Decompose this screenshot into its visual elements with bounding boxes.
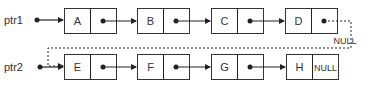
node-b-value: B [147,15,154,27]
node-e-value: E [74,61,81,73]
node-d-value: D [295,15,303,27]
linked-list-diagram: ptr1 A B C D NULL ptr2 E [0,0,373,100]
node-h-value: H [296,61,304,73]
node-h: H NULL [287,55,339,80]
ptr2-label: ptr2 [4,61,23,73]
node-d-null-label: NULL [333,36,356,46]
ptr1-label: ptr1 [4,14,23,26]
node-h-null-label: NULL [314,63,337,73]
dashed-arrowhead [58,63,64,69]
node-g-value: G [220,61,229,73]
node-c-value: C [221,15,229,27]
node-f-value: F [147,61,154,73]
node-a-value: A [74,15,82,27]
